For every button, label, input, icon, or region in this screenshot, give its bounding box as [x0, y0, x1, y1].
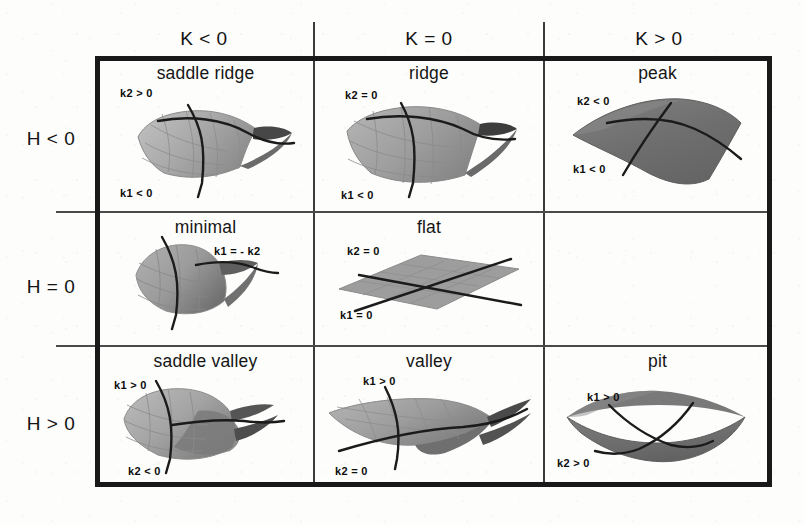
cell-saddle-valley: saddle valley: [98, 347, 313, 485]
cell-minimal: minimal k1: [98, 213, 313, 345]
cell-peak: peak k2 < 0 k1 < 0: [545, 59, 770, 211]
row-header-h-positive: H > 0: [8, 413, 94, 435]
k-label-saddle-valley-k2: k2 < 0: [128, 465, 161, 477]
k-label-saddle-ridge-k1: k1 < 0: [120, 187, 153, 199]
cell-empty-h-zero-k-positive: [545, 213, 770, 345]
cell-title-valley: valley: [315, 351, 543, 372]
k-label-peak-k2: k2 < 0: [577, 95, 610, 107]
cell-title-peak: peak: [545, 63, 770, 84]
k-label-peak-k1: k1 < 0: [573, 163, 606, 175]
k-label-pit-k1: k1 > 0: [587, 391, 620, 403]
k-label-valley-k1: k1 > 0: [363, 375, 396, 387]
cell-title-flat: flat: [315, 217, 543, 238]
k-label-flat-k2: k2 = 0: [347, 245, 380, 257]
k-label-valley-k2: k2 = 0: [335, 465, 368, 477]
cell-title-saddle-ridge: saddle ridge: [98, 63, 313, 84]
cell-title-ridge: ridge: [315, 63, 543, 84]
cell-pit: pit k1 > 0 k2 > 0: [545, 347, 770, 485]
k-label-ridge-k2: k2 = 0: [345, 89, 378, 101]
cell-title-pit: pit: [545, 351, 770, 372]
cell-ridge: ridge: [315, 59, 543, 211]
k-label-ridge-k1: k1 < 0: [341, 189, 374, 201]
row-header-h-zero: H = 0: [8, 276, 94, 298]
cell-valley: valley: [315, 347, 543, 485]
column-header-k-zero: K = 0: [320, 28, 538, 50]
k-label-pit-k2: k2 > 0: [557, 457, 590, 469]
column-header-k-negative: K < 0: [95, 28, 313, 50]
k-label-saddle-valley-k1: k1 > 0: [114, 379, 147, 391]
cell-flat: flat k2 = 0 k1 = 0: [315, 213, 543, 345]
cell-title-saddle-valley: saddle valley: [98, 351, 313, 372]
cell-title-minimal: minimal: [98, 217, 313, 238]
cell-saddle-ridge: saddle ridge: [98, 59, 313, 211]
row-header-h-negative: H < 0: [8, 128, 94, 150]
curvature-classification-figure: K < 0 K = 0 K > 0 H < 0 H = 0 H > 0 sadd…: [0, 0, 804, 525]
k-label-saddle-ridge-k2: k2 > 0: [120, 87, 153, 99]
column-header-k-positive: K > 0: [550, 28, 768, 50]
k-label-minimal-k1k2: k1 = - k2: [214, 245, 260, 257]
k-label-flat-k1: k1 = 0: [340, 309, 373, 321]
